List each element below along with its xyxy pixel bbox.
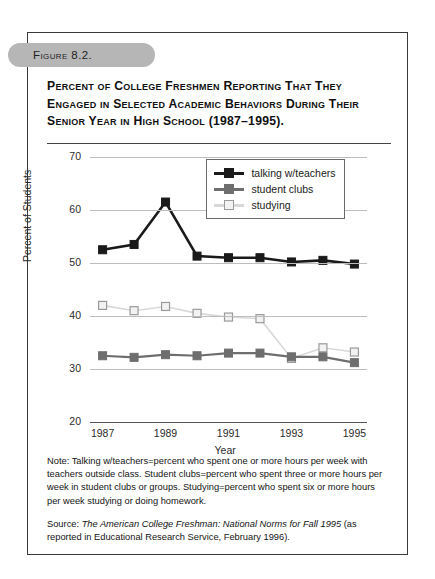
data-point [130, 353, 138, 361]
legend-marker [224, 168, 234, 178]
y-tick-label: 60 [47, 203, 81, 215]
data-point [162, 351, 170, 359]
data-point [225, 313, 233, 321]
data-point [256, 254, 264, 262]
y-axis-label: Percent of Students [21, 170, 33, 262]
y-tick-label: 30 [47, 362, 81, 374]
chart-legend: talking w/teachersstudent clubsstudying [206, 159, 344, 219]
data-point [287, 353, 295, 361]
data-point [99, 301, 107, 309]
data-point [319, 344, 327, 352]
data-point [225, 254, 233, 262]
source-prefix: Source: [47, 519, 82, 529]
gridline-70 [90, 157, 367, 158]
data-point [99, 352, 107, 360]
figure-page: Figure 8.2. Percent of College Freshmen … [0, 0, 435, 579]
data-point [130, 240, 138, 248]
legend-marker [224, 184, 234, 194]
data-point [225, 349, 233, 357]
legend-item: student clubs [214, 181, 335, 197]
legend-item: studying [214, 197, 335, 213]
data-point [287, 258, 295, 266]
y-tick-label: 70 [47, 150, 81, 162]
gridline-50 [90, 263, 367, 264]
legend-label: talking w/teachers [251, 167, 335, 179]
figure-title: Percent of College Freshmen Reporting Th… [47, 78, 392, 131]
gridline-40 [90, 316, 367, 317]
data-point [162, 302, 170, 310]
legend-swatch-icon [214, 183, 244, 195]
gridline-30 [90, 369, 367, 370]
legend-item: talking w/teachers [214, 165, 335, 181]
y-tick-label: 20 [47, 415, 81, 427]
figure-number-label: Figure 8.2. [33, 49, 92, 61]
data-point [350, 348, 358, 356]
figure-source: Source: The American College Freshman: N… [47, 518, 387, 544]
x-tick-label: 1989 [146, 427, 186, 439]
line-chart: 203040506070 19871989199119931995 Percen… [47, 150, 392, 442]
x-tick-label: 1995 [334, 427, 374, 439]
data-point [256, 349, 264, 357]
x-tick-label: 1987 [83, 427, 123, 439]
data-point [162, 198, 170, 206]
data-point [193, 252, 201, 260]
data-point [350, 260, 358, 268]
legend-marker [224, 200, 234, 210]
title-divider [47, 143, 391, 144]
legend-label: student clubs [251, 183, 313, 195]
x-tick-label: 1993 [271, 427, 311, 439]
data-point [193, 352, 201, 360]
y-tick-label: 50 [47, 256, 81, 268]
legend-swatch-icon [214, 167, 244, 179]
data-point [350, 359, 358, 367]
data-point [319, 353, 327, 361]
data-point [99, 246, 107, 254]
figure-note: Note: Talking w/teachers=percent who spe… [47, 455, 387, 508]
y-tick-label: 40 [47, 309, 81, 321]
legend-swatch-icon [214, 199, 244, 211]
legend-label: studying [251, 199, 290, 211]
data-point [130, 307, 138, 315]
gridline-20 [90, 422, 367, 423]
source-title: The American College Freshman: National … [82, 519, 342, 529]
x-tick-label: 1991 [209, 427, 249, 439]
